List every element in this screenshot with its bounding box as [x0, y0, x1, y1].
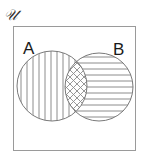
- universe-label: 𝒰: [4, 6, 22, 24]
- set-b-label: B: [113, 40, 124, 59]
- venn-diagram: 𝒰 A B: [0, 0, 144, 159]
- set-a-label: A: [23, 39, 35, 58]
